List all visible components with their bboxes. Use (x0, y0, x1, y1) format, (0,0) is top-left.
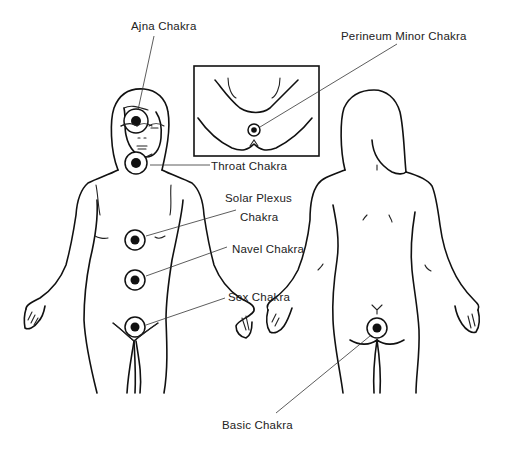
label-sex-chakra: Sex Chakra (228, 291, 290, 303)
perineum-inset (194, 66, 319, 156)
label-ajna-chakra: Ajna Chakra (131, 20, 197, 32)
label-solar-plexus-line2: Chakra (240, 211, 279, 223)
chakra-diagram: Ajna Chakra Perineum Minor Chakra Throat… (0, 0, 506, 450)
navel-chakra-marker (125, 270, 145, 290)
throat-chakra-marker (125, 152, 147, 174)
label-perineum-minor-chakra: Perineum Minor Chakra (341, 30, 467, 42)
label-basic-chakra: Basic Chakra (222, 419, 293, 431)
label-navel-chakra: Navel Chakra (232, 243, 304, 255)
label-throat-chakra: Throat Chakra (211, 160, 288, 172)
basic-chakra-marker (367, 318, 387, 338)
solar-plexus-chakra-marker (125, 230, 145, 250)
sex-chakra-marker (113, 317, 158, 341)
label-solar-plexus-line1: Solar Plexus (225, 192, 292, 204)
